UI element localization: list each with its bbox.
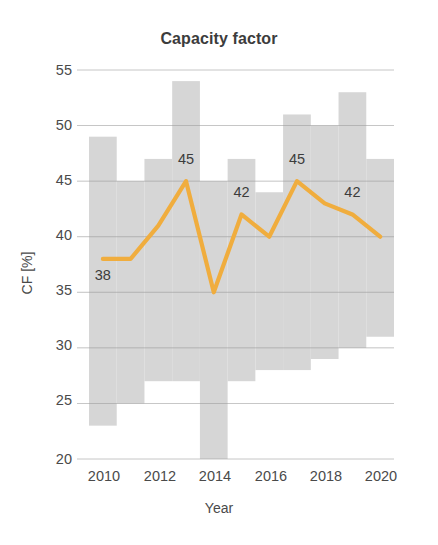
- plot-area: [0, 0, 438, 545]
- range-band-2020: [366, 159, 394, 337]
- range-band-group: [89, 81, 394, 459]
- value-label-2017: 45: [289, 151, 305, 167]
- range-band-2018: [311, 126, 339, 359]
- value-label-2019: 42: [344, 184, 360, 200]
- value-label-2010: 38: [95, 267, 111, 283]
- range-band-2013: [172, 81, 200, 381]
- capacity-factor-chart: Capacity factor CF [%] Year 55 50 45 40 …: [0, 0, 438, 545]
- value-label-2013: 45: [178, 151, 194, 167]
- value-label-2015: 42: [233, 184, 249, 200]
- range-band-2014: [200, 181, 228, 459]
